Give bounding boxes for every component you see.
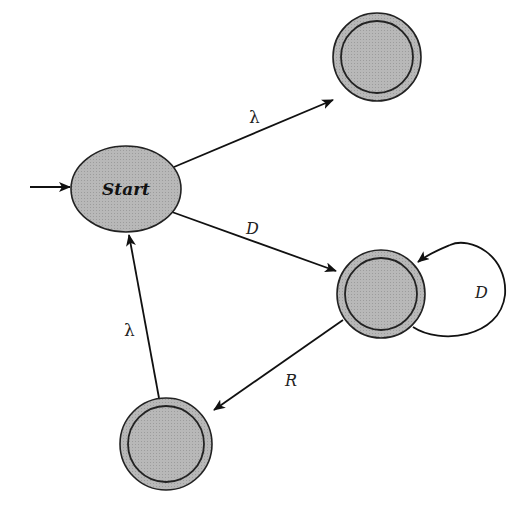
- state-start: Start: [71, 146, 181, 232]
- inner-circle: [341, 21, 413, 93]
- edge-label-d: D: [245, 219, 259, 238]
- fsa-diagram: λ D D R λ Start: [0, 0, 529, 509]
- start-label: Start: [102, 179, 150, 199]
- state-top-right-accepting: [333, 13, 421, 101]
- self-loop-path: [413, 243, 505, 336]
- edge-line: [214, 320, 343, 410]
- state-middle-right-accepting: [337, 250, 425, 338]
- edge-bottom-left-to-start: λ: [124, 235, 159, 398]
- edge-line: [129, 235, 159, 398]
- edge-label-lambda-2: λ: [124, 320, 135, 340]
- edge-label-d-loop: D: [474, 283, 488, 302]
- inner-circle: [345, 258, 417, 330]
- edge-label-r: R: [284, 371, 297, 390]
- edge-label-lambda: λ: [249, 107, 260, 127]
- edge-self-loop-middle-right: D: [413, 243, 505, 336]
- edge-start-to-top-right: λ: [174, 100, 333, 167]
- inner-circle: [128, 406, 204, 482]
- edge-start-to-middle-right: D: [172, 212, 336, 271]
- state-bottom-left-accepting: [120, 398, 212, 490]
- edge-middle-right-to-bottom-left: R: [214, 320, 343, 410]
